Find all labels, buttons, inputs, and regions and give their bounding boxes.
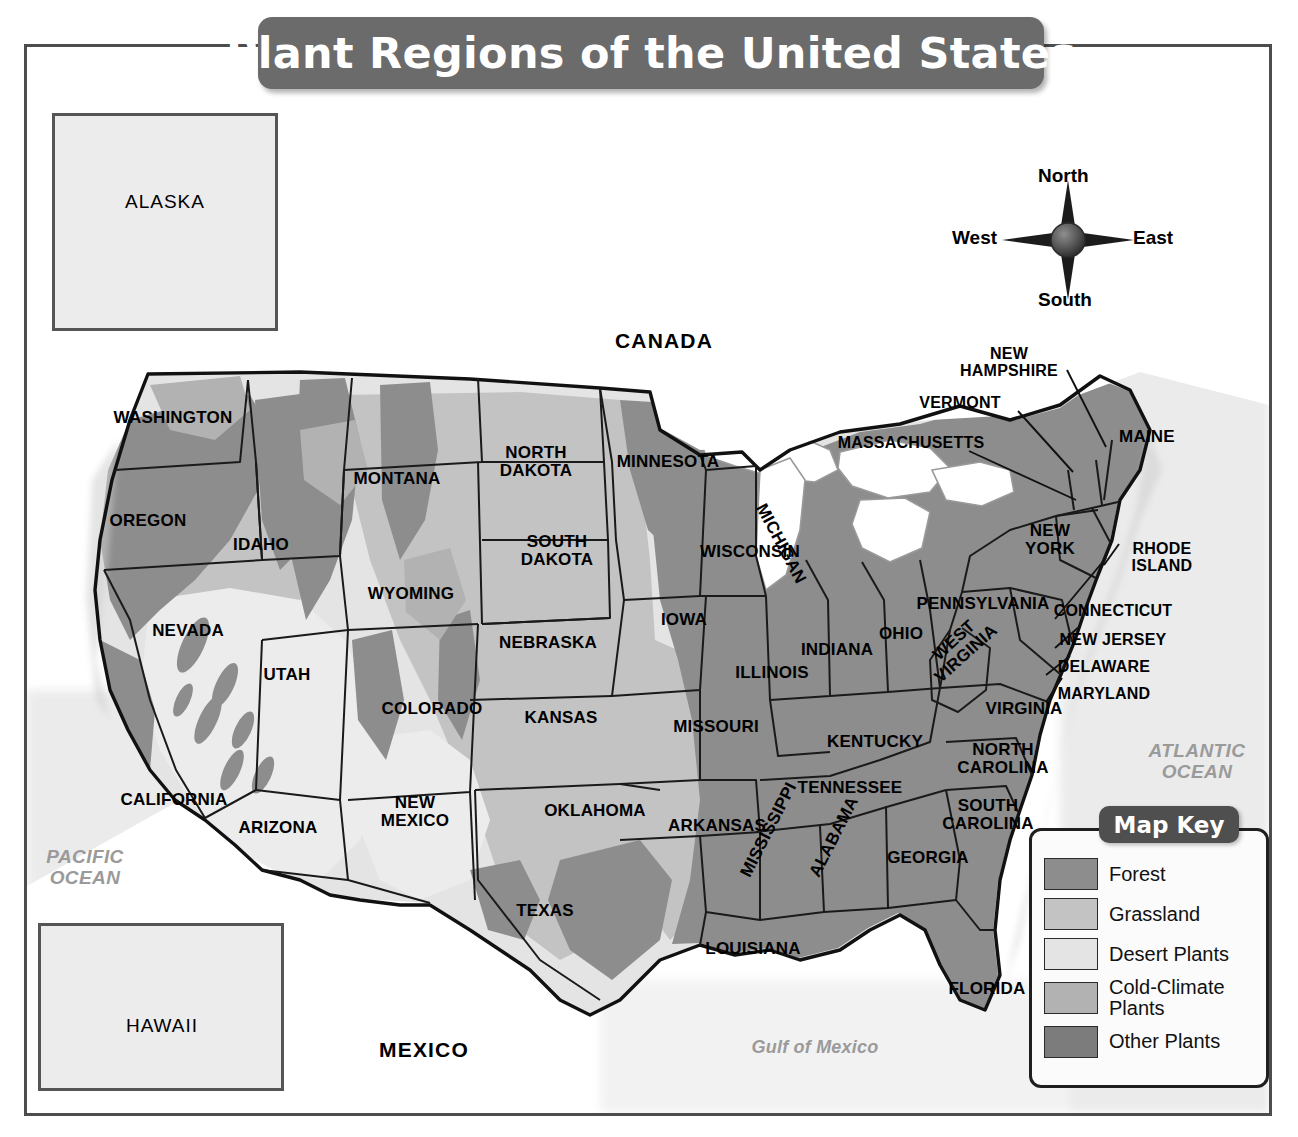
map-key-heading: Map Key [1114,812,1225,838]
callout-label-new-hampshire: NEW HAMPSHIRE [960,345,1058,380]
callout-label-massachusetts: MASSACHUSETTS [838,434,985,451]
map-key-label: Cold-Climate Plants [1109,977,1225,1019]
map-title-banner: Plant Regions of the United States [258,17,1044,89]
hawaii-inset-box [38,923,284,1091]
state-label-kansas: KANSAS [525,709,598,727]
map-key-row: Grassland [1044,897,1256,931]
alaska-inset-box [52,113,278,331]
callout-label-new-jersey: NEW JERSEY [1060,631,1167,648]
state-label-south-carolina: SOUTH CAROLINA [942,797,1033,834]
state-label-pennsylvania: PENNSYLVANIA [916,595,1049,613]
map-key-tab: Map Key [1099,806,1239,843]
state-label-iowa: IOWA [661,611,707,629]
state-label-california: CALIFORNIA [121,791,228,809]
state-label-arizona: ARIZONA [239,819,318,837]
callout-label-connecticut: CONNECTICUT [1054,602,1173,619]
state-label-minnesota: MINNESOTA [617,453,720,471]
state-label-missouri: MISSOURI [673,718,759,736]
map-key-row: Other Plants [1044,1025,1256,1059]
map-key-row: Desert Plants [1044,937,1256,971]
callout-label-delaware: DELAWARE [1058,658,1150,675]
map-page: Plant Regions of the United States North… [0,0,1298,1137]
map-key-swatch [1044,938,1098,970]
state-label-ohio: OHIO [879,625,923,643]
state-label-washington: WASHINGTON [114,409,233,427]
map-key-label: Grassland [1109,904,1200,925]
water-label-pacific-ocean: PACIFIC OCEAN [46,847,123,888]
state-label-north-dakota: NORTH DAKOTA [500,444,573,481]
state-label-tennessee: TENNESSEE [798,779,903,797]
map-key-swatch [1044,858,1098,890]
state-label-indiana: INDIANA [801,641,873,659]
callout-label-maryland: MARYLAND [1058,685,1151,702]
state-label-arkansas: ARKANSAS [668,817,766,835]
compass-west-label: West [952,227,997,249]
water-label-gulf-of-mexico: Gulf of Mexico [752,1038,879,1057]
state-label-south-dakota: SOUTH DAKOTA [521,533,594,570]
map-key-label: Forest [1109,864,1166,885]
map-key-swatch [1044,898,1098,930]
map-key-label: Other Plants [1109,1031,1220,1052]
map-title: Plant Regions of the United States [226,28,1076,78]
compass-south-label: South [1038,289,1092,311]
state-label-maine: MAINE [1119,428,1175,446]
inset-label-hawaii: HAWAII [126,1016,198,1037]
map-key-swatch [1044,982,1098,1014]
state-label-nebraska: NEBRASKA [499,634,597,652]
map-key-label: Desert Plants [1109,944,1229,965]
state-label-oklahoma: OKLAHOMA [544,802,646,820]
map-key-row: Forest [1044,857,1256,891]
map-key-panel: ForestGrasslandDesert PlantsCold-Climate… [1029,828,1269,1088]
state-label-nevada: NEVADA [152,622,224,640]
state-label-florida: FLORIDA [949,980,1026,998]
inset-label-alaska: ALASKA [125,192,205,213]
compass-east-label: East [1133,227,1173,249]
state-label-new-mexico: NEW MEXICO [381,794,449,831]
state-label-louisiana: LOUISIANA [705,940,800,958]
water-label-atlantic-ocean: ATLANTIC OCEAN [1149,741,1246,782]
state-label-kentucky: KENTUCKY [827,733,923,751]
map-key-row: Cold-Climate Plants [1044,977,1256,1019]
state-label-georgia: GEORGIA [887,849,969,867]
state-label-new-york: NEW YORK [1025,522,1075,559]
compass-north-label: North [1038,165,1089,187]
state-label-montana: MONTANA [353,470,440,488]
map-key-swatch [1044,1026,1098,1058]
state-label-virginia: VIRGINIA [985,700,1062,718]
compass-rose-icon: North South West East [952,165,1184,315]
callout-label-rhode-island: RHODE ISLAND [1132,540,1193,575]
state-label-idaho: IDAHO [233,536,289,554]
state-label-colorado: COLORADO [382,700,483,718]
state-label-wyoming: WYOMING [368,585,454,603]
state-label-texas: TEXAS [516,902,574,920]
state-label-utah: UTAH [264,666,311,684]
country-label-canada: CANADA [615,330,713,353]
country-label-mexico: MEXICO [379,1039,469,1062]
callout-label-vermont: VERMONT [919,394,1000,411]
state-label-oregon: OREGON [110,512,187,530]
state-label-illinois: ILLINOIS [735,664,808,682]
state-label-north-carolina: NORTH CAROLINA [957,741,1048,778]
